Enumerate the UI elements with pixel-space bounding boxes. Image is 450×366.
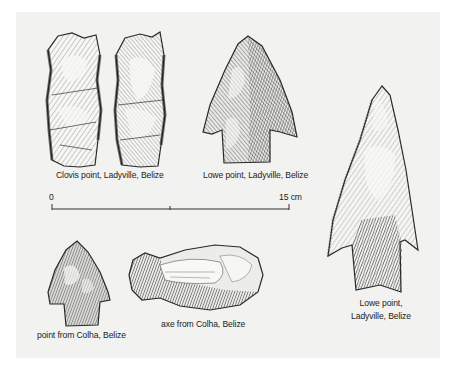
clovis-point-face-b — [115, 32, 165, 167]
scale-bar — [52, 204, 289, 210]
clovis-caption: Clovis point, Ladyville, Belize — [56, 170, 164, 180]
colha-point-caption: point from Colha, Belize — [37, 330, 126, 340]
colha-point — [48, 241, 110, 326]
lowe-right-caption-line2: Ladyville, Belize — [340, 311, 422, 321]
colha-axe — [129, 245, 263, 310]
lowe-right-caption-line1: Lowe point, — [340, 298, 422, 308]
lowe-point-small — [203, 36, 297, 163]
lowe-point-large — [328, 86, 418, 292]
lowe-top-caption: Lowe point, Ladyville, Belize — [203, 170, 308, 180]
scale-end-label: 15 cm — [279, 192, 302, 202]
colha-axe-caption: axe from Colha, Belize — [161, 319, 245, 329]
scale-start-label: 0 — [49, 192, 54, 202]
clovis-point-face-a — [47, 33, 101, 167]
